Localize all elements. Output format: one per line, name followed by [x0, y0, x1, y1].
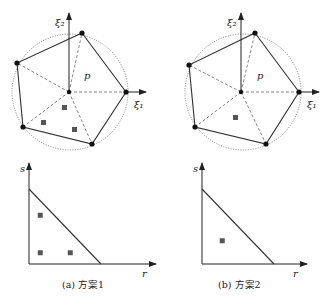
vertex — [123, 89, 128, 94]
vertex — [192, 124, 197, 129]
vertex — [263, 141, 268, 146]
vertex — [89, 141, 94, 146]
panel-b-spoke — [195, 92, 241, 127]
panel-b-spoke — [241, 33, 255, 92]
s-label: s — [20, 163, 25, 174]
panel-b-pentagon — [189, 33, 299, 144]
panel-a-spoke — [69, 33, 82, 92]
quad-point — [68, 250, 73, 255]
center-vertex — [239, 90, 243, 94]
r-label: r — [293, 268, 299, 279]
panel-b-spoke — [241, 92, 266, 144]
panel-a-pentagon — [17, 33, 126, 144]
xi2-label: ξ₂ — [55, 17, 65, 28]
quad-point — [41, 120, 46, 125]
vertex — [14, 60, 19, 65]
xi1-label: ξ₁ — [134, 99, 144, 110]
region-label-p: p — [84, 70, 91, 81]
s-label: s — [193, 163, 198, 174]
panel-b-element: ξ₂ ξ₁ p — [185, 13, 319, 150]
panel-a-spoke — [17, 63, 69, 92]
vertex — [79, 30, 84, 35]
diagram: ξ₂ ξ₁ p ξ₂ ξ₁ p s r (a) 方案1 — [0, 0, 328, 304]
quad-point — [220, 238, 225, 243]
region-label-p: p — [257, 70, 264, 81]
quad-point — [38, 250, 43, 255]
quad-point — [62, 105, 67, 110]
caption: (b) 方案2 — [218, 279, 261, 290]
vertex — [20, 124, 25, 129]
quad-point — [72, 127, 77, 132]
caption: (a) 方案1 — [62, 279, 104, 290]
panel-b-spoke — [189, 65, 241, 92]
xi1-label: ξ₁ — [307, 99, 317, 110]
panel-a-spoke — [69, 92, 92, 144]
vertex — [252, 30, 257, 35]
vertex — [186, 62, 191, 67]
center-vertex — [67, 90, 71, 94]
panel-a-reference-triangle: s r (a) 方案1 — [20, 163, 156, 290]
vertex — [296, 89, 301, 94]
xi2-label: ξ₂ — [227, 17, 237, 28]
quad-point — [233, 115, 238, 120]
panel-a-element: ξ₂ ξ₁ p — [12, 13, 146, 150]
quad-point — [38, 213, 43, 218]
hypotenuse — [202, 189, 274, 264]
panel-b-reference-triangle: s r (b) 方案2 — [193, 163, 307, 290]
r-label: r — [142, 268, 148, 279]
